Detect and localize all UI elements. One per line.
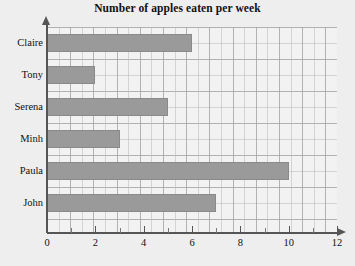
x-axis-label-4: 4 xyxy=(129,237,159,248)
bar-paula xyxy=(47,162,289,180)
bar-row xyxy=(47,155,337,187)
x-axis-arrow-icon xyxy=(337,228,346,236)
y-axis-line xyxy=(46,23,48,233)
bar-row xyxy=(47,91,337,123)
y-axis-label-paula: Paula xyxy=(0,165,43,177)
x-axis-tick-12 xyxy=(337,226,338,233)
bar-row xyxy=(47,187,337,219)
x-axis-label-8: 8 xyxy=(225,237,255,248)
y-axis-label-serena: Serena xyxy=(0,101,43,113)
y-axis-label-tony: Tony xyxy=(0,69,43,81)
y-axis-label-claire: Claire xyxy=(0,37,43,49)
x-axis-minor-tick-1 xyxy=(71,228,72,233)
x-axis-tick-6 xyxy=(192,226,193,233)
x-axis-label-0: 0 xyxy=(32,237,62,248)
x-axis-minor-tick-11 xyxy=(313,228,314,233)
bar-claire xyxy=(47,34,192,52)
x-axis-minor-tick-3 xyxy=(120,228,121,233)
x-axis-label-2: 2 xyxy=(80,237,110,248)
x-axis-label-12: 12 xyxy=(322,237,352,248)
x-axis-minor-tick-7 xyxy=(216,228,217,233)
y-axis-label-john: John xyxy=(0,197,43,209)
x-axis-minor-tick-9 xyxy=(265,228,266,233)
x-axis-tick-2 xyxy=(95,226,96,233)
y-axis-arrow-icon xyxy=(42,16,50,25)
bar-john xyxy=(47,194,216,212)
bar-row xyxy=(47,123,337,155)
x-axis-tick-10 xyxy=(289,226,290,233)
y-axis-label-minh: Minh xyxy=(0,133,43,145)
x-axis-tick-8 xyxy=(240,226,241,233)
plot-area xyxy=(47,27,337,232)
chart-title: Number of apples eaten per week xyxy=(0,2,355,14)
x-axis-tick-4 xyxy=(144,226,145,233)
x-axis-tick-0 xyxy=(47,226,48,233)
bar-row xyxy=(47,59,337,91)
bar-tony xyxy=(47,66,95,84)
bar-serena xyxy=(47,98,168,116)
x-axis-label-10: 10 xyxy=(274,237,304,248)
bar-chart: Number of apples eaten per week ClaireTo… xyxy=(0,0,355,266)
x-axis-minor-tick-5 xyxy=(168,228,169,233)
bar-row xyxy=(47,27,337,59)
x-axis-label-6: 6 xyxy=(177,237,207,248)
bar-minh xyxy=(47,130,120,148)
